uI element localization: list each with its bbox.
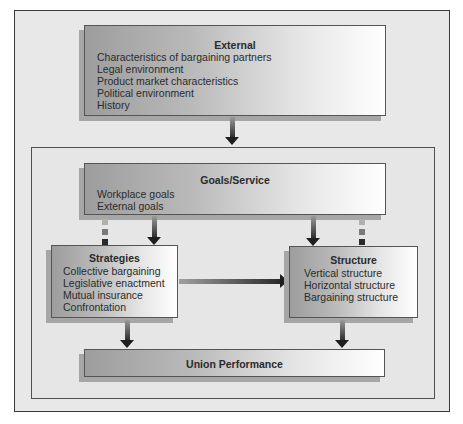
- external-item: Legal environment: [97, 63, 385, 75]
- external-item: History: [97, 99, 385, 111]
- structure-item: Horizontal structure: [304, 279, 417, 291]
- external-item: Product market characteristics: [97, 75, 385, 87]
- strategies-title: Strategies: [52, 252, 177, 264]
- strategies-item: Confrontation: [63, 301, 177, 313]
- arrow-goals-to-strategies: [152, 216, 157, 238]
- strategies-item: Legislative enactment: [63, 277, 177, 289]
- arrow-strategies-to-performance: [125, 320, 130, 341]
- structure-item: Vertical structure: [304, 267, 417, 279]
- arrow-strategies-to-structure: [179, 279, 280, 284]
- goals-item: Workplace goals: [97, 188, 385, 200]
- structure-item: Bargaining structure: [304, 291, 417, 303]
- goals-service-box: Goals/Service Workplace goals External g…: [84, 163, 386, 215]
- external-title: External: [85, 39, 385, 51]
- goals-title: Goals/Service: [85, 174, 385, 186]
- arrow-structure-to-performance: [340, 320, 345, 341]
- dashed-connector-goals-strategies: [102, 216, 108, 246]
- external-box: External Characteristics of bargaining p…: [84, 25, 386, 116]
- strategies-item: Collective bargaining: [63, 265, 177, 277]
- strategies-item: Mutual insurance: [63, 289, 177, 301]
- union-performance-box: Union Performance: [84, 349, 385, 377]
- arrow-goals-to-structure: [311, 216, 316, 239]
- external-item: Characteristics of bargaining partners: [97, 51, 385, 63]
- arrow-external-to-inner: [230, 117, 235, 138]
- structure-title: Structure: [290, 254, 417, 266]
- dashed-connector-goals-structure: [359, 216, 365, 246]
- strategies-box: Strategies Collective bargaining Legisla…: [51, 245, 178, 318]
- structure-box: Structure Vertical structure Horizontal …: [289, 246, 418, 318]
- performance-title: Union Performance: [85, 358, 384, 370]
- external-item: Political environment: [97, 87, 385, 99]
- goals-item: External goals: [97, 200, 385, 212]
